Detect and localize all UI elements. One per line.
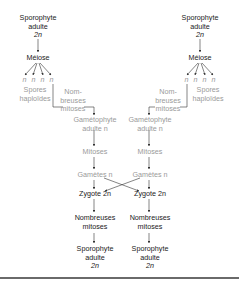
left-sporophyte-top: Sporophyte adulte 2n: [20, 14, 57, 40]
left-spores-haploides: Spores haploïdes: [19, 86, 50, 103]
left-spores-n: n n n n: [23, 76, 54, 85]
right-nombreuses-mitoses: Nombreuses mitoses: [130, 214, 171, 231]
left-sporophyte-bottom: Sporophyte adulte 2n: [77, 245, 114, 271]
left-gametes: Gamètes n: [77, 171, 112, 180]
right-spores-haploides: Spores haploïdes: [192, 86, 223, 103]
n: n: [50, 75, 54, 84]
label-line: 2n: [77, 262, 114, 271]
left-mitoses: Mitoses: [83, 148, 108, 157]
right-spores-n: n n n n: [185, 76, 216, 85]
n: n: [212, 75, 216, 84]
right-mitoses: Mitoses: [138, 148, 163, 157]
right-nombreuses-mitoses-side: Nom- breuses mitoses: [155, 88, 181, 114]
right-sporophyte-bottom: Sporophyte adulte 2n: [132, 245, 169, 271]
label-line: haploïdes: [19, 95, 50, 104]
left-meiose: Méiose: [26, 54, 49, 63]
left-gametophyte: Gamétophyte adulte n: [73, 116, 116, 133]
bottom-divider: [0, 277, 239, 279]
label-line: 2n: [20, 31, 57, 40]
n: n: [41, 75, 45, 84]
n: n: [185, 75, 189, 84]
right-zygote: Zygote 2n: [134, 190, 166, 199]
label-line: adulte n: [73, 125, 116, 134]
label-line: mitoses: [75, 223, 116, 232]
label-line: mitoses: [130, 223, 171, 232]
right-gametes: Gamètes n: [132, 171, 167, 180]
n: n: [194, 75, 198, 84]
label-line: 2n: [132, 262, 169, 271]
label-line: adulte n: [128, 125, 171, 134]
left-nombreuses-mitoses: Nombreuses mitoses: [75, 214, 116, 231]
left-zygote: Zygote 2n: [79, 190, 111, 199]
label-line: mitoses: [155, 105, 181, 114]
label-line: 2n: [182, 31, 219, 40]
n: n: [203, 75, 207, 84]
left-nombreuses-mitoses-side: Nom- breuses mitoses: [60, 88, 86, 114]
n: n: [23, 75, 27, 84]
label-line: mitoses: [60, 105, 86, 114]
arrows-layer: [0, 0, 239, 285]
label-line: haploïdes: [192, 95, 223, 104]
right-gametophyte: Gamétophyte adulte n: [128, 116, 171, 133]
n: n: [32, 75, 36, 84]
right-sporophyte-top: Sporophyte adulte 2n: [182, 14, 219, 40]
right-meiose: Méiose: [188, 54, 211, 63]
